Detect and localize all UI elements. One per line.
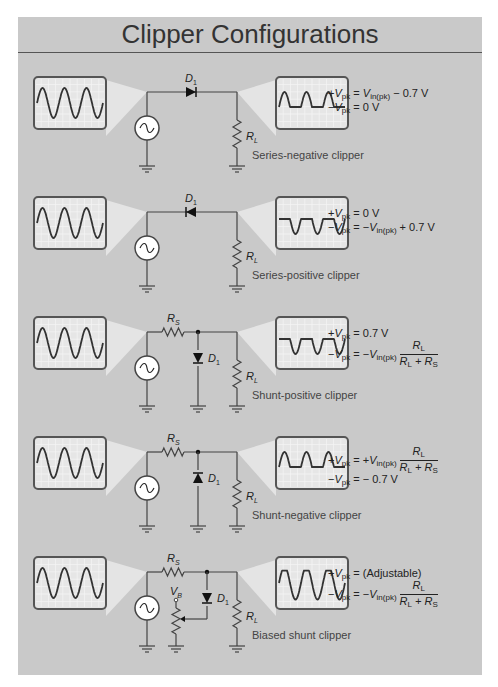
ac-source-icon: [135, 596, 159, 620]
load-resistor: [233, 240, 241, 268]
load-resistor: [233, 360, 241, 388]
diode-label: D1: [185, 192, 197, 206]
diode-icon: [193, 473, 203, 483]
page-title: Clipper Configurations: [18, 17, 482, 53]
clipper-config-3: RLRSD1Shunt-positive clipper+Vpk = 0.7 V…: [0, 310, 498, 430]
load-resistor-label: RL: [246, 250, 258, 264]
diode-label: D1: [185, 72, 197, 86]
ground-icon: [139, 646, 155, 652]
peak-voltage-formulas: +Vpk = 0.7 V−Vpk = −Vin(pk)RLRL + RS: [328, 326, 438, 366]
ground-icon: [229, 286, 245, 292]
load-resistor: [233, 480, 241, 508]
diode-label: D1: [208, 472, 220, 486]
ground-icon: [139, 166, 155, 172]
series-resistor-label: RS: [167, 432, 180, 446]
load-resistor-label: RL: [246, 370, 258, 384]
bias-voltage-label: VB: [170, 585, 182, 599]
resistor-ratio-fraction: RLRL + RS: [400, 580, 438, 611]
clipper-config-5: RLRSD1VBBiased shunt clipper+Vpk = (Adju…: [0, 550, 498, 670]
positive-peak-formula: +Vpk = Vin(pk) − 0.7 V: [328, 86, 428, 100]
load-resistor-label: RL: [246, 490, 258, 504]
series-resistor: [162, 328, 184, 336]
diode-icon: [193, 353, 203, 363]
diode-icon: [186, 207, 196, 217]
output-probe-beam: [237, 560, 276, 616]
output-probe-beam: [237, 320, 276, 376]
negative-peak-formula: −Vpk = −Vin(pk)RLRL + RS: [328, 340, 438, 366]
load-resistor: [233, 600, 241, 628]
ground-icon: [168, 646, 184, 652]
negative-peak-formula: −Vpk = −Vin(pk) + 0.7 V: [328, 220, 435, 234]
ac-source-icon: [135, 236, 159, 260]
load-resistor-label: RL: [246, 610, 258, 624]
series-resistor-label: RS: [167, 312, 180, 326]
clipper-caption: Series-negative clipper: [252, 149, 364, 161]
positive-peak-formula: +Vpk = (Adjustable): [328, 566, 438, 580]
bias-potentiometer: [172, 608, 180, 634]
series-resistor-label: RS: [167, 552, 180, 566]
clipper-caption: Shunt-negative clipper: [252, 509, 361, 521]
peak-voltage-formulas: +Vpk = 0 V−Vpk = −Vin(pk) + 0.7 V: [328, 206, 435, 234]
ground-icon: [229, 526, 245, 532]
output-probe-beam: [237, 80, 276, 136]
clipper-config-1: RLD1Series-negative clipper+Vpk = Vin(pk…: [0, 70, 498, 190]
clipper-caption: Biased shunt clipper: [252, 629, 351, 641]
negative-peak-formula: −Vpk = −Vin(pk)RLRL + RS: [328, 580, 438, 606]
input-scope: [34, 437, 106, 489]
diode-label: D1: [217, 592, 229, 606]
peak-voltage-formulas: +Vpk = Vin(pk) − 0.7 V−Vpk = 0 V: [328, 86, 428, 114]
ground-icon: [139, 406, 155, 412]
clipper-caption: Shunt-positive clipper: [252, 389, 357, 401]
series-resistor: [162, 568, 184, 576]
positive-peak-formula: +Vpk = 0.7 V: [328, 326, 438, 340]
output-probe-beam: [237, 200, 276, 256]
ac-source-icon: [135, 476, 159, 500]
positive-peak-formula: +Vpk = 0 V: [328, 206, 435, 220]
ground-icon: [229, 406, 245, 412]
ground-icon: [229, 646, 245, 652]
load-resistor-label: RL: [246, 130, 258, 144]
input-scope: [34, 197, 106, 249]
input-scope: [34, 557, 106, 609]
negative-peak-formula: −Vpk = 0 V: [328, 100, 428, 114]
input-scope: [34, 317, 106, 369]
ac-source-icon: [135, 356, 159, 380]
resistor-ratio-fraction: RLRL + RS: [400, 340, 438, 371]
output-probe-beam: [237, 440, 276, 496]
diode-icon: [202, 593, 212, 603]
resistor-ratio-fraction: RLRL + RS: [400, 446, 438, 477]
ground-icon: [190, 406, 206, 412]
diode-label: D1: [208, 352, 220, 366]
clipper-config-4: RLRSD1Shunt-negative clipper+Vpk = +Vin(…: [0, 430, 498, 550]
diode-icon: [186, 87, 196, 97]
input-scope: [34, 77, 106, 129]
peak-voltage-formulas: +Vpk = (Adjustable)−Vpk = −Vin(pk)RLRL +…: [328, 566, 438, 606]
load-resistor: [233, 120, 241, 148]
clipper-caption: Series-positive clipper: [252, 269, 360, 281]
positive-peak-formula: +Vpk = +Vin(pk)RLRL + RS: [328, 446, 438, 472]
ground-icon: [190, 526, 206, 532]
peak-voltage-formulas: +Vpk = +Vin(pk)RLRL + RS−Vpk = − 0.7 V: [328, 446, 438, 486]
ground-icon: [139, 526, 155, 532]
series-resistor: [162, 448, 184, 456]
ac-source-icon: [135, 116, 159, 140]
clipper-config-2: RLD1Series-positive clipper+Vpk = 0 V−Vp…: [0, 190, 498, 310]
ground-icon: [139, 286, 155, 292]
ground-icon: [229, 166, 245, 172]
